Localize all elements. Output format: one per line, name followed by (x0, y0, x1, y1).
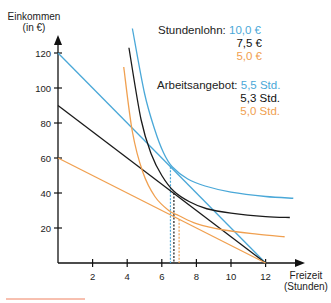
y-tick-label: 100 (35, 83, 51, 94)
x-tick-label: 2 (90, 271, 95, 282)
y-axis-arrow-icon (54, 35, 62, 45)
legend-stundenlohn-label: Stundenlohn: (158, 24, 226, 36)
x-tick-label: 6 (159, 271, 164, 282)
y-axis-label-line2: (in €) (3, 22, 65, 33)
y-tick-label: 20 (40, 223, 51, 234)
legend-stundenlohn: Stundenlohn: 10,0 € (158, 24, 261, 37)
y-tick-label: 80 (40, 118, 51, 129)
y-axis-label-line1: Einkommen (3, 11, 65, 22)
x-tick-label: 12 (260, 271, 271, 282)
legend-supply-black: 5,3 Std. (230, 92, 280, 105)
y-axis-label: Einkommen (in €) (3, 11, 65, 33)
legend-arbeitsangebot-label: Arbeitsangebot: (157, 79, 238, 91)
y-tick-label: 120 (35, 48, 51, 59)
x-axis-label-line1: Freizeit (282, 270, 330, 281)
budget-line (58, 106, 266, 264)
legend-wage-black: 7,5 € (222, 37, 262, 50)
x-axis-label: Freizeit (Stunden) (282, 270, 330, 292)
indifference-curve (129, 48, 290, 218)
legend-wage-orange: 5,0 € (222, 50, 262, 63)
budget-line (58, 158, 266, 263)
x-axis-arrow-icon (295, 259, 305, 267)
labor-supply-chart: 2468101220406080100120 (0, 0, 331, 303)
x-tick-label: 4 (125, 271, 130, 282)
x-tick-label: 8 (194, 271, 199, 282)
legend-arbeitsangebot: Arbeitsangebot: 5,5 Std. (157, 79, 280, 92)
legend-supply-blue: 5,5 Std. (241, 79, 281, 91)
y-tick-label: 40 (40, 188, 51, 199)
legend-wage-blue: 10,0 € (229, 24, 261, 36)
legend-supply-orange: 5,0 Std. (230, 105, 280, 118)
y-tick-label: 60 (40, 153, 51, 164)
x-axis-label-line2: (Stunden) (282, 281, 330, 292)
x-tick-label: 10 (226, 271, 237, 282)
